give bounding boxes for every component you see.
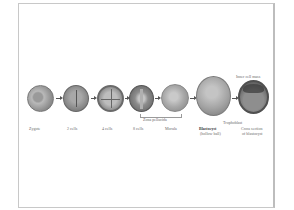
stage-label-8cells: 8 cells (133, 126, 143, 131)
zona-pellucida-label: Zona pellucida (143, 117, 167, 122)
blastocyst-cross-section (238, 80, 269, 114)
arrow-icon (56, 98, 61, 99)
morula-cell (161, 84, 189, 112)
stage-label-morula: Morula (165, 126, 177, 131)
inner-cell-mass-label: Inner cell mass (236, 74, 260, 79)
trophoblast-label: Trophoblast (223, 120, 242, 125)
eight-cell-embryo (129, 85, 154, 112)
stage-label-4cells: 4 cells (102, 126, 112, 131)
zygote-cell (27, 85, 54, 112)
stage-label-2cells: 2 cells (67, 126, 77, 131)
arrow-icon (155, 98, 159, 99)
arrow-icon (125, 98, 128, 99)
stage-sublabel-blastocyst: (hollow ball) (200, 131, 221, 136)
blastocyst-cell (196, 76, 231, 116)
four-cell-embryo (97, 85, 124, 112)
arrow-icon (232, 98, 237, 99)
stage-sublabel-cross-section: of blastocyst (242, 131, 262, 136)
arrow-icon (91, 98, 95, 99)
two-cell-embryo (63, 85, 89, 112)
arrow-icon (190, 98, 195, 99)
stage-label-zygote: Zygote (29, 126, 40, 131)
